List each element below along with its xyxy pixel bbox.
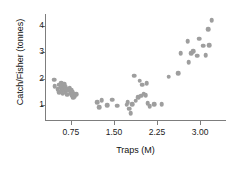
data-point [197,36,202,41]
data-point [143,93,148,98]
data-point [159,102,164,107]
data-point [206,27,211,32]
data-point [204,53,209,58]
data-point [100,98,105,103]
data-point [105,103,110,108]
data-point [207,43,212,48]
data-point [144,81,149,86]
data-point [128,111,133,116]
data-point [110,98,115,103]
data-point [166,74,171,79]
y-axis-title: Catch/Fisher (tonnes) [15,0,25,127]
data-point [185,39,190,44]
data-point [132,73,137,78]
data-point [209,18,214,23]
data-point [52,77,57,82]
data-point [195,53,200,58]
data-point [97,105,102,110]
data-point [74,92,79,97]
data-point [152,102,157,107]
data-point [178,51,183,56]
data-point [201,43,206,48]
data-point [115,103,120,108]
x-axis-title: Traps (M) [45,145,226,155]
data-point [176,71,181,76]
data-point [186,60,191,65]
scatter-chart: 1234 0.751.502.253.00 Catch/Fisher (tonn… [0,0,242,170]
